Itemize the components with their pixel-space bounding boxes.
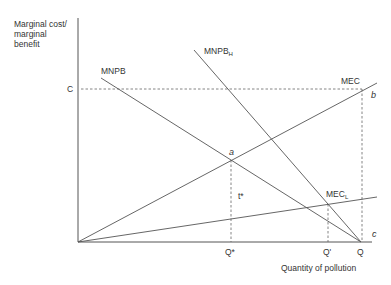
y-axis-label-line2: marginal bbox=[14, 29, 47, 39]
mec-line bbox=[78, 83, 377, 242]
mec-label: MEC bbox=[341, 76, 360, 86]
mec-l-label: MECL bbox=[326, 189, 349, 200]
mnpb-h-line bbox=[194, 50, 361, 242]
point-b-label: b bbox=[371, 90, 376, 100]
q-tick-label: Q bbox=[357, 247, 364, 257]
mec-l-line bbox=[78, 197, 377, 242]
mnpb-label: MNPB bbox=[101, 66, 126, 76]
pollution-diagram: Marginal cost/ marginal benefit C MNPB M… bbox=[0, 0, 391, 285]
tax-label: t* bbox=[238, 191, 244, 201]
point-a-label: a bbox=[229, 147, 234, 157]
q-prime-tick-label: Q' bbox=[323, 247, 332, 257]
y-axis-label-line3: benefit bbox=[14, 39, 40, 49]
mnpb-h-label: MNPBH bbox=[204, 46, 233, 57]
y-axis-label-line1: Marginal cost/ bbox=[14, 19, 68, 29]
q-star-tick-label: Q* bbox=[225, 247, 236, 257]
point-c-label: c bbox=[372, 229, 377, 239]
c-tick-label: C bbox=[67, 84, 73, 94]
mnpb-line bbox=[101, 78, 361, 242]
x-axis-label: Quantity of pollution bbox=[281, 263, 356, 273]
